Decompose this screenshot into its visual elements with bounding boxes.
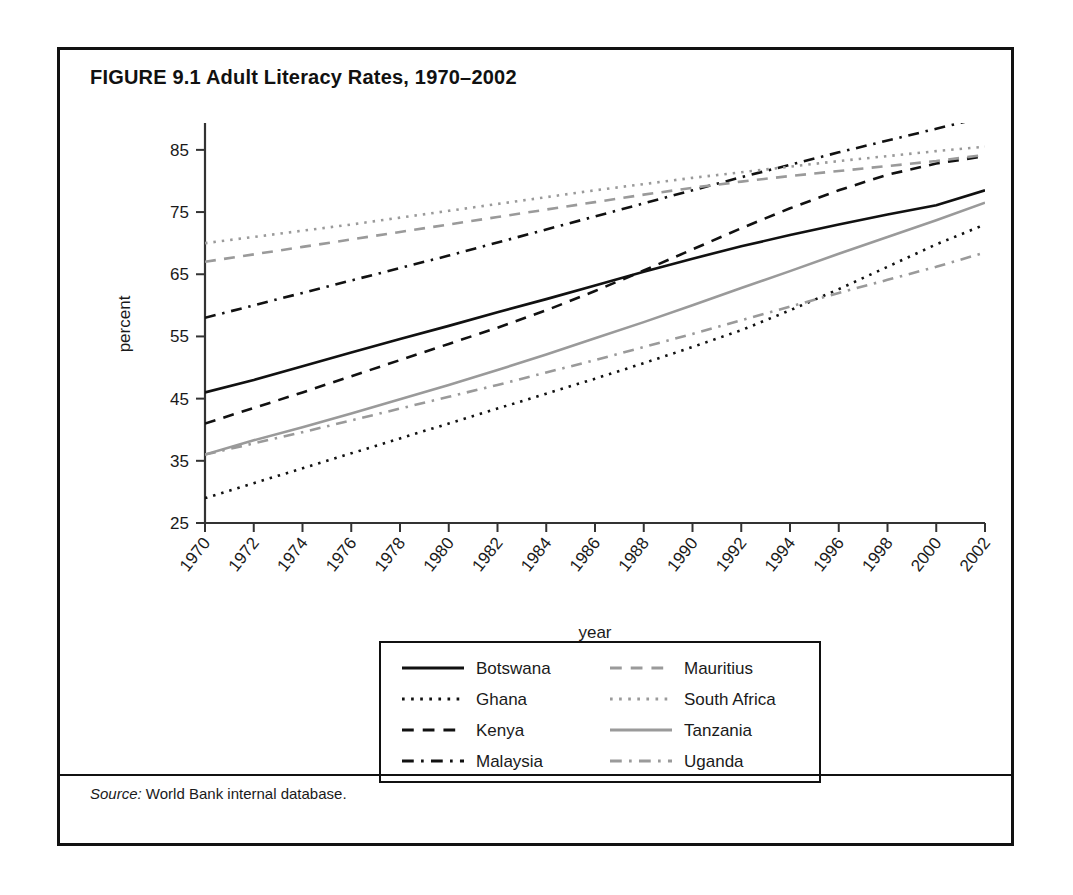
legend-label: South Africa [684, 690, 776, 709]
y-tick-label-55: 55 [170, 327, 189, 346]
legend-label: Uganda [684, 752, 744, 771]
figure-frame: FIGURE 9.1 Adult Literacy Rates, 1970–20… [57, 47, 1014, 846]
x-tick-label-1994: 1994 [761, 534, 799, 576]
x-tick-label-1984: 1984 [517, 534, 555, 576]
x-tick-label-1976: 1976 [322, 534, 360, 576]
y-tick-label-25: 25 [170, 514, 189, 533]
series-line-uganda [205, 252, 985, 454]
x-tick-label-2000: 2000 [907, 534, 945, 576]
y-tick-label-85: 85 [170, 141, 189, 160]
legend-label: Tanzania [684, 721, 753, 740]
x-tick-label-1972: 1972 [225, 534, 263, 576]
source-note: Source: World Bank internal database. [90, 785, 347, 802]
x-tick-label-1970: 1970 [176, 534, 214, 576]
source-divider [60, 774, 1011, 776]
series-group [205, 117, 985, 498]
series-line-south-africa [205, 147, 985, 243]
series-line-kenya [205, 156, 985, 423]
legend-label: Botswana [476, 659, 551, 678]
series-line-tanzania [205, 203, 985, 455]
x-tick-label-1974: 1974 [273, 534, 311, 576]
legend-box [380, 642, 820, 782]
y-tick-label-75: 75 [170, 203, 189, 222]
x-tick-label-1978: 1978 [371, 534, 409, 576]
legend-label: Ghana [476, 690, 528, 709]
x-tick-label-2002: 2002 [956, 534, 994, 576]
y-tick-label-65: 65 [170, 265, 189, 284]
x-tick-label-1996: 1996 [810, 534, 848, 576]
x-tick-label-1992: 1992 [712, 534, 750, 576]
x-tick-label-1986: 1986 [566, 534, 604, 576]
y-tick-label-35: 35 [170, 452, 189, 471]
series-line-mauritius [205, 155, 985, 262]
x-tick-label-1990: 1990 [663, 534, 701, 576]
x-tick-label-1998: 1998 [858, 534, 896, 576]
x-tick-label-1982: 1982 [468, 534, 506, 576]
x-tick-label-1980: 1980 [420, 534, 458, 576]
line-chart: 2535455565758519701972197419761978198019… [60, 50, 1017, 849]
y-axis-label: percent [115, 295, 134, 352]
source-text: World Bank internal database. [142, 785, 347, 802]
chart-plot-area: 2535455565758519701972197419761978198019… [60, 50, 1017, 849]
y-tick-label-45: 45 [170, 390, 189, 409]
legend-label: Kenya [476, 721, 525, 740]
x-axis-label: year [578, 623, 611, 642]
source-label: Source: [90, 785, 142, 802]
x-tick-label-1988: 1988 [615, 534, 653, 576]
legend-label: Malaysia [476, 752, 544, 771]
legend-label: Mauritius [684, 659, 753, 678]
